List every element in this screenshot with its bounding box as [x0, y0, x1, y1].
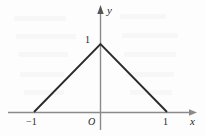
x-tick-label-minus-1: −1	[26, 117, 37, 127]
graph-figure: y x 1 −1 1 O	[0, 0, 205, 136]
y-axis-arrow-icon	[97, 5, 103, 14]
y-axis-label: y	[107, 5, 112, 16]
origin-label: O	[88, 117, 95, 127]
y-tick-label-1: 1	[85, 35, 90, 45]
x-tick-label-1: 1	[163, 117, 168, 127]
x-axis-label: x	[190, 116, 195, 127]
